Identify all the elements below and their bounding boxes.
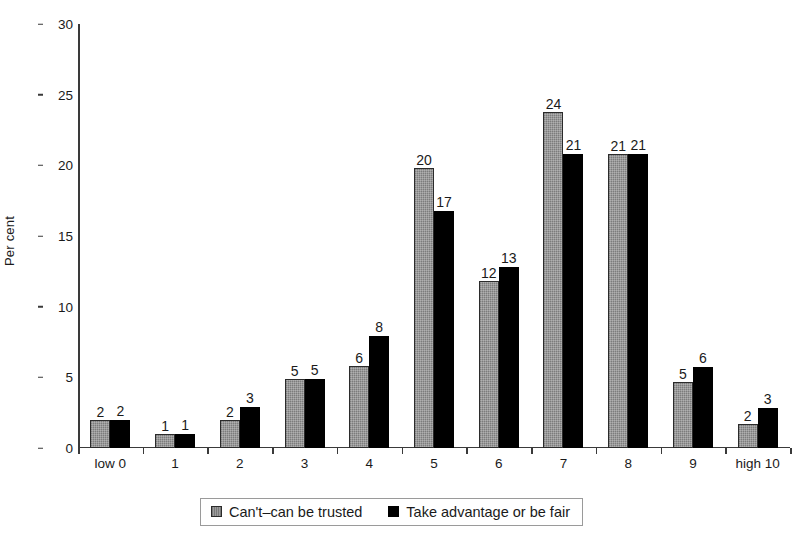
bar-series-b: 3 <box>240 407 260 448</box>
y-axis-tick-label: 30 <box>43 17 73 32</box>
x-axis-category-label: 3 <box>301 456 309 471</box>
x-axis-category-label: 4 <box>366 456 374 471</box>
y-axis-tick-label: 10 <box>43 299 73 314</box>
bar-series-b: 1 <box>175 434 195 448</box>
x-axis-category-label: 1 <box>171 456 179 471</box>
bar-value-label: 6 <box>355 351 363 365</box>
legend-item-series-b: Take advantage or be fair <box>388 504 570 520</box>
bar-group: 22 <box>90 420 130 448</box>
x-axis-category-label: 9 <box>689 456 697 471</box>
y-axis-tick-mark <box>38 377 44 379</box>
bar-value-label: 3 <box>764 392 772 406</box>
bar-series-b: 6 <box>693 367 713 448</box>
x-axis-category-label: 2 <box>236 456 244 471</box>
x-axis-tick-mark <box>596 448 598 454</box>
bar-group: 11 <box>155 434 195 448</box>
x-axis-category-label: low 0 <box>95 456 127 471</box>
bar-value-label: 8 <box>375 320 383 334</box>
x-axis-tick-mark <box>661 448 663 454</box>
bar-value-label: 6 <box>699 351 707 365</box>
gray-hatched-swatch-icon <box>211 506 222 517</box>
bar-group: 55 <box>285 379 325 448</box>
bar-series-a: 2 <box>90 420 110 448</box>
y-axis-line <box>78 24 80 448</box>
bar-series-a: 2 <box>220 420 240 448</box>
y-axis-tick-mark <box>38 235 44 237</box>
x-axis-category-label: high 10 <box>735 456 779 471</box>
bar-series-b: 5 <box>305 379 325 448</box>
plot-area: 0510152025302211235568201712132421212156… <box>78 24 790 448</box>
bar-group: 2421 <box>543 112 583 448</box>
bar-series-a: 6 <box>349 366 369 448</box>
x-axis-category-label: 6 <box>495 456 503 471</box>
x-axis-tick-mark <box>78 448 80 454</box>
x-axis-tick-mark <box>531 448 533 454</box>
y-axis-tick-mark <box>38 447 44 449</box>
black-swatch-icon <box>388 506 399 517</box>
bar-series-a: 5 <box>673 382 693 448</box>
bar-value-label: 3 <box>246 391 254 405</box>
bar-series-b: 2 <box>110 420 130 448</box>
legend-label-series-a: Can't–can be trusted <box>229 504 362 520</box>
bar-value-label: 2 <box>116 404 124 418</box>
bar-value-label: 2 <box>96 405 104 419</box>
bar-group: 2017 <box>414 168 454 448</box>
bar-series-b: 21 <box>563 154 583 448</box>
bar-value-label: 5 <box>311 363 319 377</box>
x-axis-tick-mark <box>402 448 404 454</box>
bar-series-a: 5 <box>285 379 305 448</box>
bar-series-a: 20 <box>414 168 434 448</box>
bar-series-b: 8 <box>369 336 389 448</box>
y-axis-tick-label: 15 <box>43 229 73 244</box>
bar-group: 23 <box>738 408 778 448</box>
bar-value-label: 21 <box>610 139 626 153</box>
x-axis-category-label: 7 <box>560 456 568 471</box>
bar-group: 1213 <box>479 267 519 448</box>
bar-series-a: 2 <box>738 424 758 448</box>
y-axis-tick-label: 5 <box>43 370 73 385</box>
bar-value-label: 5 <box>679 367 687 381</box>
bar-value-label: 5 <box>291 364 299 378</box>
y-axis-title: Per cent <box>2 106 17 196</box>
x-axis-tick-mark <box>143 448 145 454</box>
bar-value-label: 13 <box>501 251 517 265</box>
bar-series-a: 24 <box>543 112 563 448</box>
bar-group: 68 <box>349 336 389 448</box>
x-axis-tick-mark <box>207 448 209 454</box>
bar-value-label: 2 <box>226 405 234 419</box>
bar-value-label: 2 <box>744 409 752 423</box>
y-axis-tick-mark <box>38 94 44 96</box>
bar-value-label: 1 <box>181 418 189 432</box>
y-axis-tick-mark <box>38 165 44 167</box>
chart-legend: Can't–can be trusted Take advantage or b… <box>200 498 583 526</box>
bar-group: 23 <box>220 407 260 448</box>
bar-series-b: 3 <box>758 408 778 448</box>
bar-value-label: 21 <box>566 138 582 152</box>
bar-series-b: 21 <box>628 154 648 448</box>
x-axis-category-label: 5 <box>430 456 438 471</box>
bar-value-label: 20 <box>416 153 432 167</box>
bar-group: 2121 <box>608 154 648 448</box>
legend-item-series-a: Can't–can be trusted <box>211 504 362 520</box>
y-axis-title-text: Per cent <box>2 196 17 286</box>
x-axis-tick-mark <box>790 448 792 454</box>
y-axis-tick-mark <box>38 23 44 25</box>
x-axis-tick-mark <box>466 448 468 454</box>
bar-series-a: 12 <box>479 281 499 448</box>
bar-series-b: 17 <box>434 211 454 448</box>
x-axis-tick-mark <box>272 448 274 454</box>
bar-series-a: 21 <box>608 154 628 448</box>
y-axis-tick-label: 25 <box>43 87 73 102</box>
y-axis-tick-label: 20 <box>43 158 73 173</box>
bar-value-label: 17 <box>436 195 452 209</box>
x-axis-tick-mark <box>725 448 727 454</box>
x-axis-category-label: 8 <box>624 456 632 471</box>
legend-label-series-b: Take advantage or be fair <box>406 504 570 520</box>
bar-value-label: 1 <box>161 419 169 433</box>
y-axis-tick-mark <box>38 306 44 308</box>
bar-value-label: 24 <box>546 97 562 111</box>
bar-series-a: 1 <box>155 434 175 448</box>
bar-series-b: 13 <box>499 267 519 448</box>
x-axis-tick-mark <box>337 448 339 454</box>
y-axis-tick-label: 0 <box>43 441 73 456</box>
